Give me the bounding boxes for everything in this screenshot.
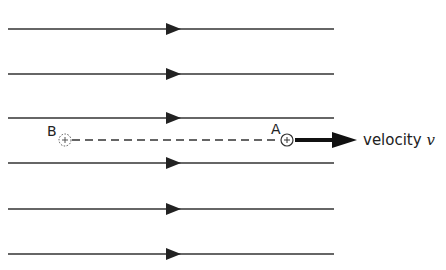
- field-arrowhead-icon: [166, 23, 181, 35]
- field-arrowhead-icon: [166, 203, 181, 215]
- point-b-label: B: [47, 123, 57, 139]
- field-line-5: [8, 203, 334, 215]
- velocity-arrow: [295, 132, 357, 148]
- field-line-6: [8, 248, 334, 260]
- field-arrowhead-icon: [166, 248, 181, 260]
- field-line-2: [8, 68, 334, 80]
- field-diagram: B A velocity v: [0, 0, 446, 270]
- field-line-3: [8, 112, 334, 124]
- field-line-1: [8, 23, 334, 35]
- field-line-4: [8, 157, 334, 169]
- field-arrowhead-icon: [166, 68, 181, 80]
- point-b: B: [47, 123, 71, 146]
- point-a: A: [271, 121, 293, 146]
- field-arrowhead-icon: [166, 157, 181, 169]
- velocity-label: velocity v: [363, 131, 435, 149]
- field-arrowhead-icon: [166, 112, 181, 124]
- point-a-label: A: [271, 121, 281, 137]
- velocity-arrowhead-icon: [332, 132, 357, 148]
